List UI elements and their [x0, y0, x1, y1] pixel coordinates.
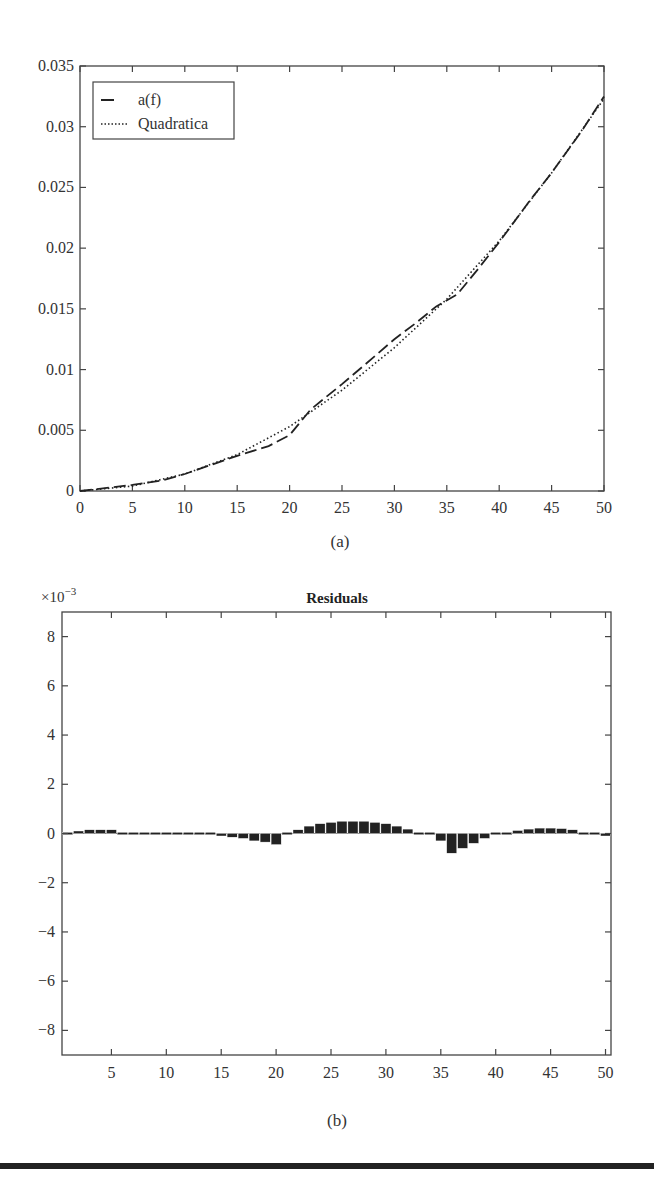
y-multiplier-label: ×10−3 [41, 585, 77, 605]
x-tick-label: 50 [598, 1064, 614, 1081]
x-tick-label: 45 [544, 499, 560, 516]
residual-bar [326, 822, 336, 833]
residual-bar [139, 832, 149, 835]
residual-bar [304, 826, 314, 833]
residual-bar [458, 834, 468, 849]
residual-bar [557, 829, 567, 834]
x-tick-label: 35 [433, 1064, 449, 1081]
residual-bar [579, 832, 589, 835]
series-Quadratica [80, 99, 604, 491]
y-tick-label: −2 [38, 874, 55, 891]
residual-bar [293, 830, 303, 834]
residual-bar [249, 834, 259, 841]
y-tick-label: 2 [47, 775, 55, 792]
residual-bar [205, 832, 215, 835]
residual-bar [436, 834, 446, 841]
residual-bars [62, 821, 611, 853]
residual-bar [370, 822, 380, 833]
residual-bar [524, 829, 534, 833]
residual-bar [590, 832, 600, 835]
residual-bar [546, 828, 556, 833]
x-tick-label: 5 [128, 499, 136, 516]
y-tick-label: 0.03 [46, 118, 74, 135]
residual-bar [348, 821, 358, 833]
residual-bar [73, 831, 83, 834]
x-tick-label: 35 [439, 499, 455, 516]
y-tick-label: 0 [66, 482, 74, 499]
residual-bar [194, 832, 204, 835]
y-tick-label: 0.005 [38, 421, 74, 438]
panel-b-caption: (b) [327, 1111, 347, 1130]
x-tick-label: 30 [378, 1064, 394, 1081]
series-a(f) [80, 96, 604, 491]
residual-bar [271, 834, 281, 845]
residual-bar [95, 830, 105, 834]
x-tick-label: 0 [76, 499, 84, 516]
y-tick-label: 8 [47, 628, 55, 645]
residual-bar [359, 821, 369, 833]
residual-bar [392, 826, 402, 833]
residual-bar [128, 832, 138, 835]
y-tick-label: 4 [47, 726, 55, 743]
y-tick-label: 0.035 [38, 57, 74, 74]
x-tick-label: 25 [334, 499, 350, 516]
residual-bar [513, 831, 523, 834]
x-tick-label: 15 [229, 499, 245, 516]
x-tick-label: 40 [488, 1064, 504, 1081]
x-tick-label: 20 [282, 499, 298, 516]
x-tick-label: 20 [268, 1064, 284, 1081]
x-tick-label: 10 [158, 1064, 174, 1081]
x-tick-label: 5 [107, 1064, 115, 1081]
x-tick-label: 25 [323, 1064, 339, 1081]
y-tick-label: 0.02 [46, 239, 74, 256]
residual-bar [469, 834, 479, 844]
residual-bar [337, 821, 347, 833]
legend-label-af: a(f) [138, 91, 161, 109]
residual-bar [216, 834, 226, 837]
x-tick-label: 30 [386, 499, 402, 516]
residual-bar [535, 828, 545, 833]
y-tick-label: −4 [38, 923, 55, 940]
plot-a-legend: a(f) Quadratica [93, 82, 234, 139]
residual-bar [84, 830, 94, 834]
page-divider-rule [0, 1163, 654, 1169]
residuals-title: Residuals [306, 590, 368, 606]
plot-a-series [80, 96, 604, 491]
residual-bar [502, 832, 512, 835]
y-tick-label: 0.025 [38, 178, 74, 195]
residual-bar [425, 832, 435, 835]
y-tick-label: 0 [47, 825, 55, 842]
y-tick-label: 0.015 [38, 300, 74, 317]
residual-bar [260, 834, 270, 843]
x-tick-label: 10 [177, 499, 193, 516]
residual-bar [183, 832, 193, 835]
residual-bar [403, 829, 413, 833]
panel-a-quadratic-fit: 05101520253035404550 00.0050.010.0150.02… [38, 57, 612, 551]
x-tick-label: 45 [543, 1064, 559, 1081]
residual-bar [381, 824, 391, 834]
panel-b-residuals: Residuals ×10−3 5101520253035404550 −8−6… [38, 585, 614, 1130]
legend-label-quadratica: Quadratica [138, 115, 208, 132]
residual-bar [106, 830, 116, 834]
residual-bar [447, 834, 457, 854]
residual-bar [491, 832, 501, 835]
y-tick-label: 0.01 [46, 361, 74, 378]
residual-bar [150, 832, 160, 835]
plot-b-x-ticks: 5101520253035404550 [107, 612, 613, 1081]
residual-bar [117, 832, 127, 835]
x-tick-label: 40 [491, 499, 507, 516]
residual-bar [161, 832, 171, 835]
residual-bar [282, 832, 292, 835]
residual-bar [172, 832, 182, 835]
residual-bar [568, 830, 578, 834]
y-tick-label: 6 [47, 677, 55, 694]
figure: 05101520253035404550 00.0050.010.0150.02… [0, 0, 654, 1189]
residual-bar [480, 834, 490, 839]
residual-bar [315, 824, 325, 834]
x-tick-label: 15 [213, 1064, 229, 1081]
x-tick-label: 50 [596, 499, 612, 516]
residual-bar [227, 834, 237, 838]
residual-bar [238, 834, 248, 839]
y-tick-label: −6 [38, 972, 55, 989]
y-tick-label: −8 [38, 1021, 55, 1038]
